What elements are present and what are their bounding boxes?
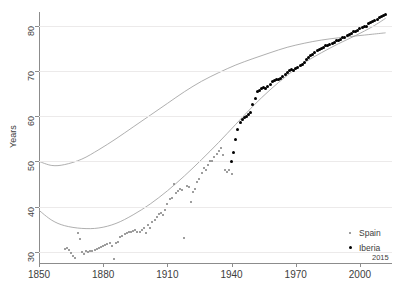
data-point-spain [218,150,220,152]
x-tick-label: 1850 [28,269,50,280]
data-point-iberia [365,25,368,28]
y-gridline [39,252,392,253]
data-point-spain [207,164,209,166]
x-tick-label: 1880 [92,269,114,280]
life-expectancy-scatter-chart: Years 3040506070801850188019101940197020… [0,0,414,297]
data-point-spain [145,232,147,234]
y-tick-label: 30 [26,252,36,262]
y-gridline [39,207,392,208]
y-gridline [39,161,392,162]
fit-line [39,18,386,228]
data-point-spain [154,219,156,221]
data-point-spain [111,245,113,247]
data-point-spain [188,186,190,188]
small-dot-marker-icon [345,232,355,234]
data-point-spain [139,231,141,233]
legend-label-spain: Spain [359,228,381,238]
y-gridline [39,116,392,117]
data-point-iberia [239,121,242,124]
fit-line [39,33,386,166]
data-point-spain [205,169,207,171]
data-point-spain [141,229,143,231]
y-tick-label: 80 [26,26,36,36]
plot-area [39,12,392,261]
x-axis-tick [167,263,168,267]
y-gridline [39,26,392,27]
dot-marker-icon [345,246,355,249]
data-point-spain [147,224,149,226]
y-gridline [39,71,392,72]
data-point-spain [216,153,218,155]
x-tick-label: 2000 [349,269,371,280]
legend-label-iberia: Iberia [359,243,380,253]
data-point-iberia [254,97,257,100]
legend-item-iberia: Iberia [345,240,381,255]
x-axis-line [39,263,392,264]
data-point-spain [109,242,111,244]
legend: Spain Iberia [345,225,381,255]
y-axis-title: Years [8,125,18,148]
x-axis-tick [232,263,233,267]
x-axis-tick [296,263,297,267]
legend-item-spain: Spain [345,225,381,240]
data-point-spain [201,172,203,174]
x-tick-label: 1940 [220,269,242,280]
x-axis-tick [39,263,40,267]
data-point-iberia [384,13,387,16]
fit-curves [39,12,392,261]
data-point-spain [156,216,158,218]
data-point-spain [117,241,119,243]
data-point-spain [194,188,196,190]
x-tick-label: 1910 [156,269,178,280]
x-axis-tick [360,263,361,267]
y-tick-label: 70 [26,71,36,81]
y-tick-label: 50 [26,161,36,171]
data-point-spain [175,192,177,194]
y-tick-label: 40 [26,207,36,217]
data-point-iberia [303,61,306,64]
x-tick-label: 1970 [285,269,307,280]
data-point-spain [220,147,222,149]
data-point-iberia [230,160,233,163]
data-point-iberia [269,83,272,86]
x-axis-tick [103,263,104,267]
data-point-spain [171,197,173,199]
data-point-spain [231,173,233,175]
data-point-spain [83,253,85,255]
y-tick-label: 60 [26,116,36,126]
data-point-spain [222,154,224,156]
data-point-spain [70,252,72,254]
